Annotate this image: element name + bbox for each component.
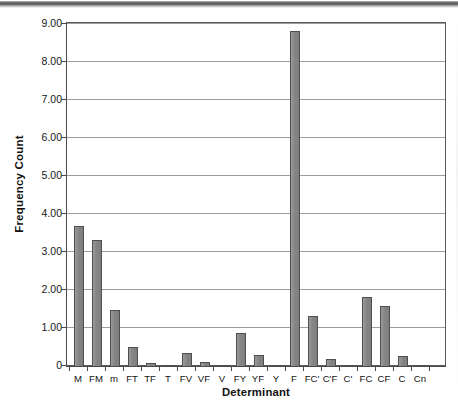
y-axis-line bbox=[66, 22, 67, 367]
x-axis-tick-mark bbox=[195, 366, 196, 371]
x-axis-tick-mark bbox=[177, 366, 178, 371]
bar bbox=[236, 333, 246, 367]
bar bbox=[128, 347, 138, 367]
y-axis-tick-group: 01.002.003.004.005.006.007.008.009.00 bbox=[0, 0, 62, 411]
x-axis-tick-mark bbox=[339, 366, 340, 371]
x-axis-tick-mark bbox=[267, 366, 268, 371]
x-axis-tick-mark bbox=[411, 366, 412, 371]
frequency-count-bar-chart: Frequency Count 01.002.003.004.005.006.0… bbox=[0, 0, 458, 411]
plot-area bbox=[66, 22, 446, 366]
y-axis-tick: 6.00 bbox=[0, 131, 62, 143]
x-axis-tick-mark bbox=[303, 366, 304, 371]
y-axis-tick-label: 5.00 bbox=[0, 169, 62, 181]
y-axis-tick: 2.00 bbox=[0, 283, 62, 295]
y-axis-tick-label: 1.00 bbox=[0, 321, 62, 333]
y-axis-tick-label: 7.00 bbox=[0, 93, 62, 105]
y-axis-tick: 7.00 bbox=[0, 93, 62, 105]
y-axis-tick-label: 0 bbox=[0, 359, 62, 371]
x-axis-tick-mark bbox=[87, 366, 88, 371]
bar bbox=[182, 353, 192, 367]
bar bbox=[110, 310, 120, 367]
bar bbox=[92, 240, 102, 367]
y-axis-tick-label: 3.00 bbox=[0, 245, 62, 257]
bar bbox=[290, 31, 300, 367]
x-axis-title: Determinant bbox=[66, 386, 446, 398]
x-axis-tick-mark bbox=[69, 366, 70, 371]
y-axis-tick-label: 9.00 bbox=[0, 17, 62, 29]
x-axis-tick-mark bbox=[123, 366, 124, 371]
bar bbox=[362, 297, 372, 367]
x-axis-tick-mark bbox=[141, 366, 142, 371]
x-axis-tick-mark bbox=[321, 366, 322, 371]
y-axis-tick: 3.00 bbox=[0, 245, 62, 257]
bar bbox=[74, 226, 84, 367]
x-axis-tick-mark bbox=[429, 366, 430, 371]
y-axis-tick-label: 4.00 bbox=[0, 207, 62, 219]
x-axis-tick-mark bbox=[357, 366, 358, 371]
y-axis-tick: 9.00 bbox=[0, 17, 62, 29]
x-axis-tick-mark bbox=[249, 366, 250, 371]
y-axis-tick-label: 8.00 bbox=[0, 55, 62, 67]
x-axis-tick-mark bbox=[213, 366, 214, 371]
y-axis-tick-label: 6.00 bbox=[0, 131, 62, 143]
scan-caption-text bbox=[8, 398, 238, 407]
x-axis-tick-mark bbox=[159, 366, 160, 371]
y-axis-tick: 0 bbox=[0, 359, 62, 371]
bar bbox=[308, 316, 318, 367]
x-axis-tick-label: Cn bbox=[404, 373, 436, 384]
y-axis-tick-label: 2.00 bbox=[0, 283, 62, 295]
x-axis-tick-mark bbox=[285, 366, 286, 371]
y-axis-tick: 5.00 bbox=[0, 169, 62, 181]
x-axis-tick-mark bbox=[375, 366, 376, 371]
y-axis-tick: 4.00 bbox=[0, 207, 62, 219]
x-axis-tick-mark bbox=[231, 366, 232, 371]
y-axis-tick: 1.00 bbox=[0, 321, 62, 333]
bars-layer bbox=[68, 24, 446, 367]
y-axis-tick: 8.00 bbox=[0, 55, 62, 67]
x-axis-tick-mark bbox=[105, 366, 106, 371]
x-axis-tick-mark bbox=[393, 366, 394, 371]
bar bbox=[380, 306, 390, 367]
